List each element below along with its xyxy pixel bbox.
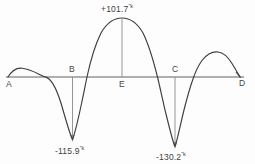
curve-diagram-figure: A B E C D +101.7"k -115.9"k -130.2"k — [0, 0, 255, 164]
curve-end-tick-d — [236, 72, 241, 77]
annotation-min1-unit: "k — [80, 145, 84, 151]
curve-plot-svg — [0, 0, 255, 164]
annotation-min1-value: -115.9"k — [55, 146, 84, 155]
annotation-peak-unit: "k — [128, 3, 132, 9]
annotation-min2-number: -130.2 — [156, 152, 181, 162]
point-label-b: B — [69, 65, 75, 74]
annotation-min2-unit: "k — [181, 151, 185, 157]
annotation-peak-value: +101.7"k — [101, 4, 133, 13]
point-label-e: E — [119, 80, 125, 89]
annotation-min1-number: -115.9 — [55, 146, 80, 156]
point-label-d: D — [239, 79, 245, 88]
point-label-a: A — [6, 80, 12, 89]
annotation-min2-value: -130.2"k — [156, 152, 186, 161]
annotation-peak-number: +101.7 — [101, 4, 128, 14]
point-label-c: C — [172, 65, 178, 74]
